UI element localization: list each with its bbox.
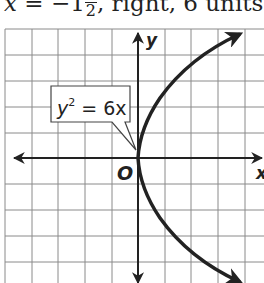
grid [5,29,264,283]
origin-label: O [117,162,133,184]
x-axis-label: x [255,163,264,183]
parabola-upper-branch [138,34,240,158]
y-axis-label: y [146,30,158,50]
equation-label: y2 = 6x [56,96,127,119]
coordinate-graph: y2 = 6x y x O [0,0,264,283]
parabola-lower-branch [138,158,240,282]
